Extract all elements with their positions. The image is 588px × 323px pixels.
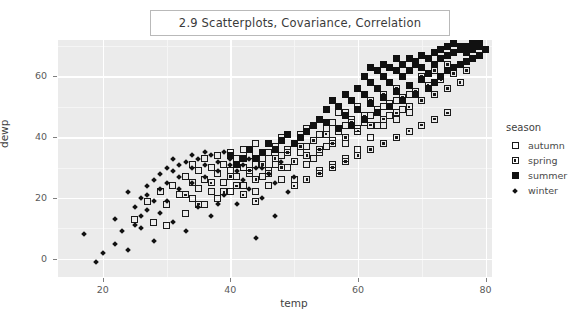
small-diamond-icon xyxy=(506,189,524,193)
data-point-spring xyxy=(303,152,310,159)
data-point-spring xyxy=(354,152,361,159)
data-point-winter xyxy=(183,229,189,235)
data-point-summer xyxy=(374,67,381,74)
data-point-winter xyxy=(253,235,259,241)
x-tick-label: 40 xyxy=(210,284,250,295)
data-point-winter xyxy=(176,162,182,168)
data-point-summer xyxy=(297,134,304,141)
y-axis-label: dewp xyxy=(0,120,10,148)
data-point-spring xyxy=(393,109,400,116)
data-point-spring xyxy=(342,158,349,165)
data-point-winter xyxy=(151,238,157,244)
data-point-spring xyxy=(418,122,425,129)
y-tick-mark xyxy=(53,259,57,260)
data-point-winter xyxy=(145,183,151,189)
data-point-spring xyxy=(367,122,374,129)
data-point-spring xyxy=(450,70,457,77)
filled-square-icon xyxy=(506,172,524,179)
data-point-autumn xyxy=(367,134,374,141)
y-tick-mark xyxy=(53,76,57,77)
data-point-spring xyxy=(240,191,247,198)
data-point-autumn xyxy=(265,182,272,189)
data-point-summer xyxy=(354,85,361,92)
data-point-winter xyxy=(272,213,278,219)
figure-title-box: 2.9 Scatterplots, Covariance, Correlatio… xyxy=(150,10,450,36)
data-point-spring xyxy=(278,164,285,171)
y-tick-label: 20 xyxy=(17,192,47,203)
data-point-spring xyxy=(380,140,387,147)
data-point-summer xyxy=(303,128,310,135)
data-point-summer xyxy=(342,112,349,119)
data-point-winter xyxy=(113,241,119,247)
data-point-winter xyxy=(151,177,157,183)
data-point-summer xyxy=(393,88,400,95)
data-point-summer xyxy=(246,146,253,153)
data-point-summer xyxy=(272,146,279,153)
data-point-summer xyxy=(399,61,406,68)
data-point-spring xyxy=(329,164,336,171)
data-point-spring xyxy=(284,149,291,156)
x-tick-mark xyxy=(103,278,104,282)
data-point-autumn xyxy=(201,155,208,162)
data-point-spring xyxy=(246,167,253,174)
data-point-spring xyxy=(367,146,374,153)
data-point-winter xyxy=(113,216,119,222)
legend-item-summer[interactable]: summer xyxy=(506,168,582,183)
y-tick-mark xyxy=(53,198,57,199)
data-point-winter xyxy=(164,165,170,171)
data-point-spring xyxy=(252,176,259,183)
data-point-winter xyxy=(259,195,265,201)
y-tick-label: 0 xyxy=(17,253,47,264)
data-point-spring xyxy=(316,170,323,177)
data-point-spring xyxy=(418,97,425,104)
y-tick-label: 60 xyxy=(17,70,47,81)
data-point-spring xyxy=(406,103,413,110)
data-point-spring xyxy=(444,109,451,116)
data-point-winter xyxy=(170,168,176,174)
data-point-summer xyxy=(335,103,342,110)
data-point-spring xyxy=(182,191,189,198)
data-point-autumn xyxy=(182,210,189,217)
data-point-summer xyxy=(418,76,425,83)
legend-item-spring[interactable]: spring xyxy=(506,153,582,168)
data-point-winter xyxy=(132,223,138,229)
legend-item-winter[interactable]: winter xyxy=(506,183,582,198)
data-point-summer xyxy=(399,73,406,80)
data-point-summer xyxy=(354,106,361,113)
legend-item-autumn[interactable]: autumn xyxy=(506,138,582,153)
data-points-layer xyxy=(58,40,492,277)
data-point-winter xyxy=(132,204,138,210)
x-tick-label: 80 xyxy=(466,284,506,295)
data-point-winter xyxy=(125,189,131,195)
data-point-autumn xyxy=(380,122,387,129)
x-tick-label: 60 xyxy=(338,284,378,295)
data-point-summer xyxy=(348,97,355,104)
x-axis-label: temp xyxy=(0,297,588,309)
data-point-autumn xyxy=(342,140,349,147)
data-point-summer xyxy=(329,97,336,104)
legend-label-spring: spring xyxy=(528,155,558,166)
data-point-spring xyxy=(303,176,310,183)
data-point-winter xyxy=(157,171,163,177)
data-point-summer xyxy=(374,85,381,92)
data-point-summer xyxy=(278,137,285,144)
dotted-square-icon xyxy=(506,157,524,164)
data-point-autumn xyxy=(144,198,151,205)
data-point-autumn xyxy=(303,143,310,150)
y-tick-label: 40 xyxy=(17,131,47,142)
data-point-summer xyxy=(412,91,419,98)
data-point-autumn xyxy=(406,109,413,116)
data-point-winter xyxy=(138,226,144,232)
data-point-summer xyxy=(265,140,272,147)
data-point-summer xyxy=(361,116,368,123)
data-point-summer xyxy=(418,52,425,59)
data-point-summer xyxy=(291,140,298,147)
data-point-summer xyxy=(386,103,393,110)
data-point-winter xyxy=(189,153,195,159)
data-point-spring xyxy=(431,91,438,98)
data-point-spring xyxy=(444,85,451,92)
data-point-summer xyxy=(361,73,368,80)
data-point-summer xyxy=(335,125,342,132)
data-point-winter xyxy=(145,207,151,213)
data-point-summer xyxy=(310,122,317,129)
